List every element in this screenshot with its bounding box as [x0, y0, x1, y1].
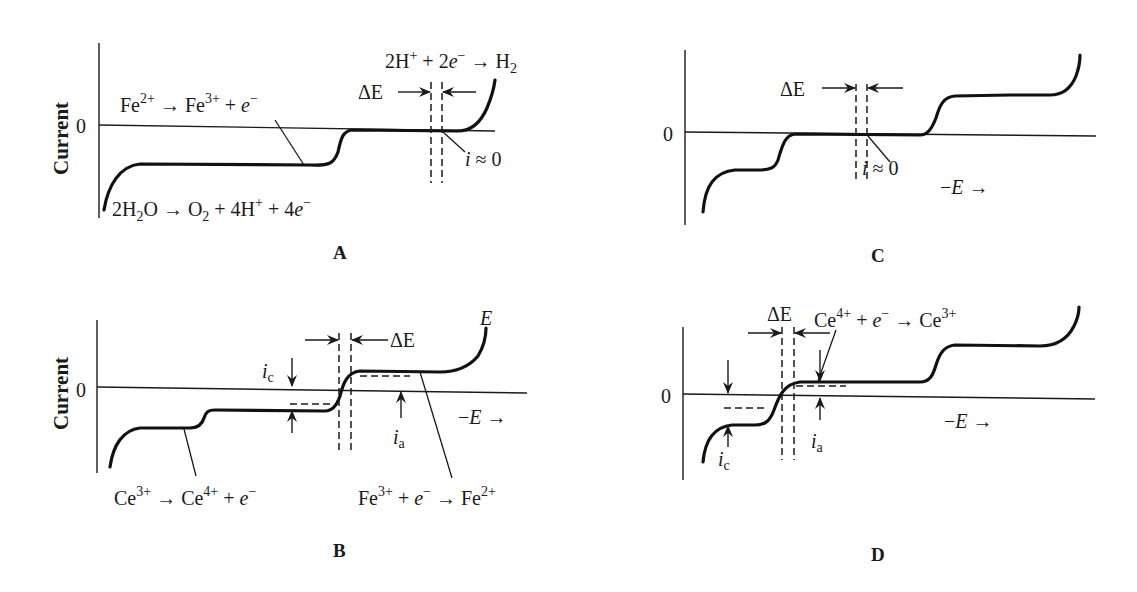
- reaction-water-oxidation: 2H2O → O2 + 4H+ + 4e−: [112, 195, 311, 224]
- fe-reaction-leader: [420, 372, 452, 478]
- panel-a: Current 0 ΔE i ≈ 0 2H+ + 2e− → H2 Fe2+ →…: [49, 43, 517, 263]
- neg-e-axis-label: −E →: [944, 410, 993, 432]
- delta-e-label: ΔE: [767, 303, 792, 325]
- ic-label: ic: [262, 360, 274, 385]
- fe-reaction-leader: [275, 120, 304, 165]
- panel-d: 0 ΔE ic ia −E → Ce4+ + e− → Ce3+ D: [661, 303, 1095, 565]
- reaction-ce3-oxidation: Ce3+ → Ce4+ + e−: [114, 484, 256, 509]
- ia-label: ia: [393, 426, 406, 451]
- panel-label-c: C: [871, 245, 885, 266]
- panel-b: Current 0 ΔE E ic ia −E → Ce3+ → Ce4+ + …: [49, 307, 527, 561]
- zero-tick-label: 0: [661, 385, 671, 407]
- neg-e-axis-label: −E →: [458, 406, 507, 428]
- delta-e-label: ΔE: [358, 81, 383, 103]
- panel-label-a: A: [333, 242, 347, 263]
- panel-label-b: B: [333, 540, 346, 561]
- neg-e-axis-label: −E →: [940, 176, 989, 198]
- reaction-fe2-oxidation: Fe2+ → Fe3+ + e−: [120, 91, 258, 116]
- reaction-fe3-reduction: Fe3+ + e− → Fe2+: [358, 484, 496, 509]
- zero-tick-label: 0: [76, 115, 86, 137]
- ic-label: ic: [718, 448, 730, 473]
- zero-tick-label: 0: [663, 123, 673, 145]
- delta-e-label: ΔE: [390, 329, 415, 351]
- y-axis-label: Current: [49, 102, 73, 175]
- ia-label: ia: [811, 430, 824, 455]
- voltammogram-curve: [703, 55, 1080, 212]
- reaction-hydrogen-evolution: 2H+ + 2e− → H2: [385, 48, 517, 76]
- voltammogram-curve: [110, 328, 486, 467]
- zero-current-line: [683, 394, 1095, 399]
- zero-current-line: [97, 387, 527, 393]
- zero-tick-label: 0: [76, 379, 86, 401]
- panel-label-d: D: [871, 544, 885, 565]
- i-approx-zero-label: i ≈ 0: [465, 148, 502, 170]
- voltammogram-figure: Current 0 ΔE i ≈ 0 2H+ + 2e− → H2 Fe2+ →…: [0, 0, 1137, 592]
- e-label: E: [479, 307, 492, 329]
- y-axis-label: Current: [49, 357, 73, 430]
- ce-reaction-leader: [184, 429, 196, 476]
- i-approx-zero-label: i ≈ 0: [862, 157, 899, 179]
- delta-e-label: ΔE: [780, 78, 805, 100]
- panel-c: 0 ΔE i ≈ 0 −E → C: [663, 50, 1096, 266]
- reaction-ce4-reduction: Ce4+ + e− → Ce3+: [814, 306, 956, 331]
- i-zero-leader: [443, 132, 465, 152]
